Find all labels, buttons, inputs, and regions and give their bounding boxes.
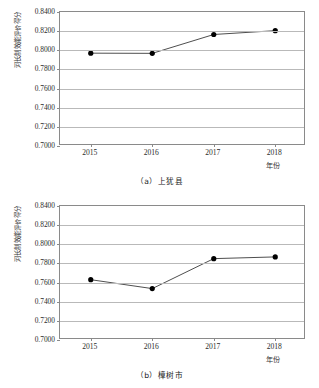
y-tick-mark bbox=[57, 12, 60, 13]
y-tick-label: 0.8200 bbox=[15, 220, 55, 229]
grid-line bbox=[60, 283, 304, 284]
x-tick-mark bbox=[214, 338, 215, 341]
grid-line bbox=[60, 244, 304, 245]
x-tick-mark bbox=[91, 144, 92, 147]
grid-line bbox=[60, 89, 304, 90]
y-tick-label: 0.7600 bbox=[15, 277, 55, 286]
figure-a: 河长制效能评价得分 0.84000.82000.80000.78000.7600… bbox=[0, 0, 319, 194]
x-tick-mark bbox=[214, 144, 215, 147]
x-tick-label: 2017 bbox=[188, 342, 238, 351]
y-tick-label: 0.8000 bbox=[15, 45, 55, 54]
grid-line bbox=[60, 321, 304, 322]
y-tick-label: 0.7800 bbox=[15, 258, 55, 267]
x-tick-label: 2015 bbox=[65, 342, 115, 351]
y-tick-label: 0.7000 bbox=[15, 335, 55, 344]
y-tick-mark bbox=[57, 283, 60, 284]
y-tick-label: 0.7200 bbox=[15, 121, 55, 130]
x-tick-label: 2016 bbox=[126, 148, 176, 157]
grid-line bbox=[60, 50, 304, 51]
x-tick-mark bbox=[275, 144, 276, 147]
grid-line bbox=[60, 225, 304, 226]
figure-b: 河长制效能评价得分 0.84000.82000.80000.78000.7600… bbox=[0, 194, 319, 388]
data-line bbox=[91, 257, 276, 289]
x-tick-mark bbox=[275, 338, 276, 341]
y-tick-label: 0.7600 bbox=[15, 83, 55, 92]
data-point-marker bbox=[211, 256, 216, 261]
y-tick-label: 0.7800 bbox=[15, 64, 55, 73]
x-tick-mark bbox=[91, 338, 92, 341]
x-tick-label: 2018 bbox=[249, 148, 299, 157]
grid-line bbox=[60, 108, 304, 109]
plot-area-b bbox=[59, 205, 305, 339]
y-tick-mark bbox=[57, 302, 60, 303]
y-tick-mark bbox=[57, 263, 60, 264]
y-tick-label: 0.7200 bbox=[15, 315, 55, 324]
y-tick-mark bbox=[57, 321, 60, 322]
grid-line bbox=[60, 31, 304, 32]
x-axis-title-a: 年份 bbox=[266, 160, 281, 170]
data-point-marker bbox=[88, 277, 93, 282]
y-tick-label: 0.8400 bbox=[15, 201, 55, 210]
x-tick-label: 2015 bbox=[65, 148, 115, 157]
y-tick-label: 0.7400 bbox=[15, 102, 55, 111]
y-tick-mark bbox=[57, 31, 60, 32]
y-tick-mark bbox=[57, 127, 60, 128]
chart-a: 河长制效能评价得分 0.84000.82000.80000.78000.7600… bbox=[0, 0, 319, 194]
data-point-marker bbox=[273, 254, 278, 259]
y-tick-label: 0.8000 bbox=[15, 239, 55, 248]
y-tick-mark bbox=[57, 244, 60, 245]
grid-line bbox=[60, 263, 304, 264]
y-tick-mark bbox=[57, 225, 60, 226]
y-tick-mark bbox=[57, 108, 60, 109]
x-tick-mark bbox=[152, 338, 153, 341]
data-point-marker bbox=[88, 51, 93, 56]
caption-a: （a）上犹县 bbox=[0, 175, 319, 186]
y-tick-label: 0.8200 bbox=[15, 26, 55, 35]
plot-area-a bbox=[59, 11, 305, 145]
grid-line bbox=[60, 127, 304, 128]
x-axis-title-b: 年份 bbox=[266, 354, 281, 364]
x-tick-mark bbox=[152, 144, 153, 147]
x-tick-label: 2018 bbox=[249, 342, 299, 351]
y-tick-mark bbox=[57, 69, 60, 70]
y-tick-mark bbox=[57, 50, 60, 51]
x-tick-label: 2016 bbox=[126, 342, 176, 351]
y-tick-label: 0.7400 bbox=[15, 296, 55, 305]
grid-line bbox=[60, 69, 304, 70]
data-point-marker bbox=[150, 286, 155, 291]
chart-b: 河长制效能评价得分 0.84000.82000.80000.78000.7600… bbox=[0, 194, 319, 388]
caption-b: （b）樟树市 bbox=[0, 369, 319, 380]
y-tick-mark bbox=[57, 146, 60, 147]
y-tick-mark bbox=[57, 206, 60, 207]
y-axis-ticks-b: 0.84000.82000.80000.78000.76000.74000.72… bbox=[13, 194, 55, 388]
y-axis-ticks-a: 0.84000.82000.80000.78000.76000.74000.72… bbox=[13, 0, 55, 194]
data-point-marker bbox=[211, 32, 216, 37]
y-tick-mark bbox=[57, 340, 60, 341]
y-tick-mark bbox=[57, 89, 60, 90]
y-tick-label: 0.8400 bbox=[15, 7, 55, 16]
y-tick-label: 0.7000 bbox=[15, 141, 55, 150]
grid-line bbox=[60, 302, 304, 303]
data-point-marker bbox=[150, 51, 155, 56]
x-tick-label: 2017 bbox=[188, 148, 238, 157]
